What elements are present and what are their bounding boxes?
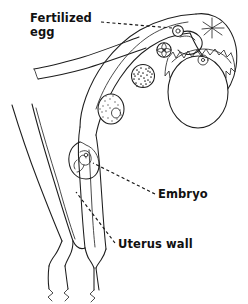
four-cell-cleavage-stage [157,43,171,57]
uterine-horn-right [78,127,106,249]
label-embryo: Embryo [158,188,208,202]
cervix-and-vagina [48,241,106,302]
anatomy-drawing [0,0,248,304]
leader-line-uterus-wall [76,192,115,243]
fertilized-egg-zygote [173,26,184,37]
ruptured-follicle-starburst [202,18,224,38]
uterine-horn-left [12,104,75,241]
label-fertilized-egg: Fertilized egg [30,12,112,39]
morula [132,65,155,88]
implanted-embryo [69,142,99,179]
leader-line-embryo [93,163,155,194]
label-uterus-wall: Uterus wall [118,238,193,252]
blastocyst [98,94,124,124]
broad-ligament [34,37,146,79]
figure-root: Fertilized egg Embryo Uterus wall [0,0,248,304]
